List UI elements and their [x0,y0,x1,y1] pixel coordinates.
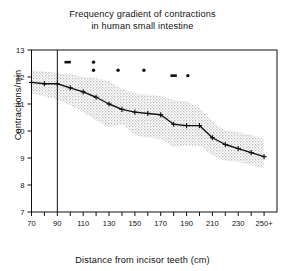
svg-text:11: 11 [17,100,25,109]
svg-text:230: 230 [232,219,245,228]
svg-text:250+: 250+ [256,219,274,228]
svg-text:210: 210 [206,219,219,228]
x-axis-tick-labels: 7090110130150170190210230250+ [27,219,273,228]
svg-text:8: 8 [20,181,24,190]
annotation-dot-markers [64,60,189,77]
y-axis-tick-labels: 78910111213 [16,46,24,217]
chart-figure: Frequency gradient of contractions in hu… [0,0,285,271]
svg-text:130: 130 [103,219,116,228]
svg-text:7: 7 [20,208,24,217]
svg-text:190: 190 [180,219,193,228]
svg-text:12: 12 [16,73,24,82]
y-axis-ticks [28,50,32,212]
x-axis-ticks [32,212,265,216]
plot-canvas: 78910111213 7090110130150170190210230250… [0,0,285,271]
svg-text:150: 150 [129,219,142,228]
svg-text:13: 13 [16,46,24,55]
svg-text:170: 170 [154,219,167,228]
svg-text:110: 110 [77,219,89,228]
confidence-band [32,70,265,169]
svg-text:70: 70 [27,219,35,228]
svg-text:10: 10 [16,127,24,136]
svg-text:9: 9 [20,154,24,163]
svg-text:90: 90 [53,219,61,228]
